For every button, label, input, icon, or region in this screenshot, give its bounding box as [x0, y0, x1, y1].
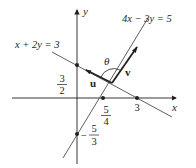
- x-axis-label: x: [171, 101, 177, 113]
- label-y-intercept-3-2: 3 2: [57, 73, 67, 96]
- equation-line-1: x + 2y = 3: [14, 39, 60, 50]
- line-4x-minus-3y-eq-5: [63, 18, 148, 158]
- vector-u-label: u: [90, 77, 96, 89]
- equation-line-2: 4x − 3y = 5: [122, 13, 172, 24]
- label-x-intercept-5-4: 5 4: [101, 104, 111, 127]
- fraction-denominator: 2: [59, 85, 64, 96]
- vector-v-label: v: [125, 66, 131, 78]
- line-x-plus-2y-eq-3: [52, 52, 172, 117]
- fraction-numerator: 5: [91, 123, 96, 134]
- label-x-intercept-3: 3: [134, 102, 139, 113]
- label-y-intercept-neg-5-3: − 5 3: [81, 123, 99, 147]
- fraction-sign: −: [81, 130, 87, 141]
- angle-theta-label: θ: [104, 55, 110, 67]
- y-axis-label: y: [82, 5, 88, 17]
- fraction-numerator: 5: [103, 104, 108, 115]
- fraction-denominator: 4: [103, 116, 109, 127]
- vector-u-arrowhead: [85, 70, 92, 75]
- fraction-denominator: 3: [91, 136, 96, 147]
- point-x-intercept-3: [135, 96, 139, 100]
- point-y-intercept-3-2: [75, 63, 79, 67]
- point-x-intercept-5-4: [101, 96, 105, 100]
- diagram-canvas: y x x + 2y = 3 4x − 3y = 5 u v θ 3 2 3 5…: [0, 0, 196, 168]
- point-y-intercept-neg-5-3: [75, 132, 79, 136]
- fraction-numerator: 3: [59, 73, 64, 84]
